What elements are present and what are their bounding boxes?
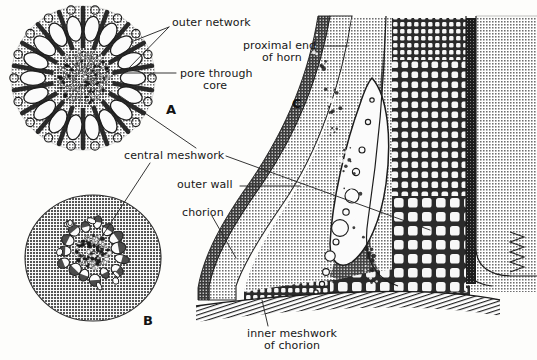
label-core: core	[203, 80, 227, 93]
label-of-horn: of horn	[262, 52, 302, 65]
label-outer-wall: outer wall	[177, 179, 233, 192]
panel-c-cut-surface	[196, 291, 500, 322]
panel-a-core	[53, 48, 113, 108]
figure-canvas: outer network pore through core proximal…	[0, 0, 537, 360]
label-outer-network: outer network	[172, 17, 251, 30]
panel-letter-b: B	[143, 313, 153, 328]
panel-a-figure	[10, 6, 156, 150]
panel-letter-a: A	[166, 102, 176, 117]
panel-c-figure	[196, 16, 537, 322]
label-of-chorion: of chorion	[264, 340, 320, 353]
label-chorion: chorion	[182, 207, 224, 220]
panel-b-figure	[25, 195, 161, 321]
label-central-meshwork: central meshwork	[124, 150, 224, 163]
panel-letter-c: C	[292, 96, 302, 111]
